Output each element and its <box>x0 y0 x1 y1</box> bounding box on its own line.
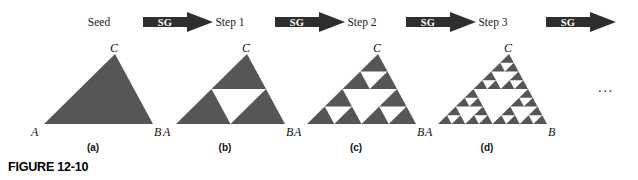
continuation-ellipsis: ... <box>598 80 614 95</box>
sierpinski-figure-seed <box>28 44 178 136</box>
sg-arrow-1: SG <box>143 12 213 32</box>
vertex-label-c-step-1: C <box>242 42 250 54</box>
sierpinski-figure-step-1 <box>160 44 310 136</box>
vertex-label-a-step-3: A <box>425 126 432 138</box>
sierpinski-figure-step-3 <box>422 44 572 136</box>
sierpinski-figure-step-2 <box>291 44 441 136</box>
sub-caption-d: (d) <box>467 143 507 153</box>
sub-caption-c: (c) <box>336 143 376 153</box>
vertex-label-b-step-3: B <box>548 126 555 138</box>
sg-arrow-3: SG <box>406 12 476 32</box>
vertex-label-b-seed: B <box>154 126 161 138</box>
sg-arrow-2: SG <box>275 12 345 32</box>
vertex-label-a-step-1: A <box>163 126 170 138</box>
figure-number-label: FIGURE 12-10 <box>8 161 88 174</box>
vertex-label-b-step-2: B <box>417 126 424 138</box>
vertex-label-b-step-1: B <box>286 126 293 138</box>
vertex-label-c-step-3: C <box>504 42 512 54</box>
vertex-label-a-seed: A <box>31 126 38 138</box>
stage-label-seed: Seed <box>74 17 124 29</box>
vertex-label-a-step-2: A <box>294 126 301 138</box>
sg-arrow-4: SG <box>546 12 616 32</box>
figure-canvas: Seed Step 1 Step 2 Step 3 SG SG SG SG A … <box>0 0 638 180</box>
vertex-label-c-step-2: C <box>373 42 381 54</box>
vertex-label-c-seed: C <box>110 42 118 54</box>
sub-caption-a: (a) <box>73 143 113 153</box>
sub-caption-b: (b) <box>205 143 245 153</box>
